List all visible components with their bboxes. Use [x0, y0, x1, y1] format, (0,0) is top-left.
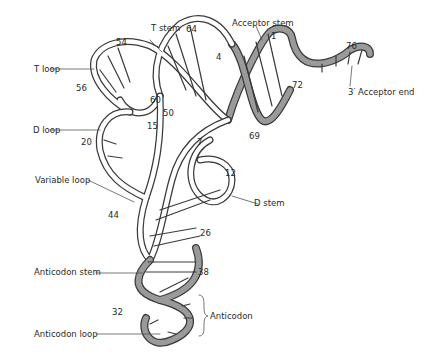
label-t-loop: T loop	[34, 65, 60, 74]
position-56: 56	[76, 84, 87, 93]
position-26: 26	[200, 229, 211, 238]
position-4: 4	[216, 53, 221, 62]
label-variable-loop: Variable loop	[35, 176, 90, 185]
position-60: 60	[150, 96, 161, 105]
position-32: 32	[112, 308, 123, 317]
position-54: 54	[116, 38, 127, 47]
label-anticodon: Anticodon	[210, 312, 253, 321]
position-38: 38	[198, 268, 209, 277]
position-1: 1	[271, 32, 276, 41]
position-64: 64	[186, 25, 197, 34]
label-acceptor-end: 3′ Acceptor end	[348, 88, 414, 97]
label-anticodon-stem: Anticodon stem	[34, 268, 101, 277]
label-anticodon-loop: Anticodon loop	[34, 330, 98, 339]
position-76: 76	[346, 42, 357, 51]
position-15: 15	[147, 122, 158, 131]
position-20: 20	[81, 138, 92, 147]
position-7: 7	[197, 138, 202, 147]
label-d-loop: D loop	[33, 126, 60, 135]
position-50: 50	[163, 109, 174, 118]
acceptor-end-leader	[350, 66, 352, 86]
anticodon-bracket	[199, 295, 208, 336]
acceptor-stem-leader	[256, 26, 262, 40]
position-12: 12	[225, 169, 236, 178]
label-t-stem: T stem	[151, 24, 180, 33]
label-acceptor-stem: Acceptor stem	[232, 19, 294, 28]
position-69: 69	[249, 132, 260, 141]
label-d-stem: D stem	[254, 199, 285, 208]
position-72: 72	[292, 81, 303, 90]
position-44: 44	[108, 211, 119, 220]
